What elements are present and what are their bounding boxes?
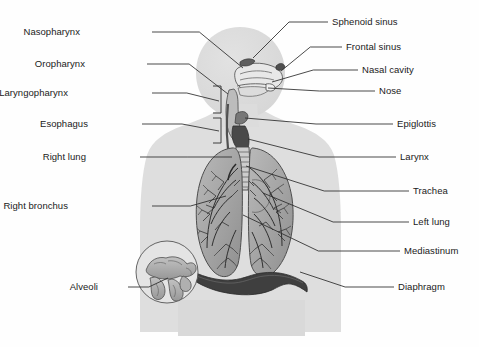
respiratory-system-diagram: NasopharynxOropharynxLaryngopharynxEsoph… [0,0,479,347]
label-frontal-sinus: Frontal sinus [346,41,401,52]
leader-line-frontal-sinus [281,47,342,71]
label-nose: Nose [379,85,401,96]
nose-shape [266,84,275,91]
alveoli-inset-circle [136,241,198,303]
label-epiglottis: Epiglottis [397,118,436,129]
larynx-shape [232,126,249,148]
label-larynx: Larynx [400,151,429,162]
label-oropharynx: Oropharynx [35,58,85,69]
leader-line-nose [268,88,375,91]
label-esophagus: Esophagus [40,118,88,129]
label-nasal-cavity: Nasal cavity [362,64,414,75]
label-trachea: Trachea [413,185,448,196]
lower-abdomen-silhouette [178,300,305,336]
label-alveoli: Alveoli [70,281,98,292]
label-sphenoid-sinus: Sphenoid sinus [332,16,398,27]
label-left-lung: Left lung [413,216,450,227]
anatomy-illustration [0,0,479,347]
label-laryngopharynx: Laryngopharynx [0,87,68,98]
label-right-lung: Right lung [43,151,86,162]
label-right-bronchus: Right bronchus [3,200,68,211]
label-diaphragm: Diaphragm [398,281,445,292]
label-mediastinum: Mediastinum [404,245,458,256]
label-nasopharynx: Nasopharynx [23,26,80,37]
